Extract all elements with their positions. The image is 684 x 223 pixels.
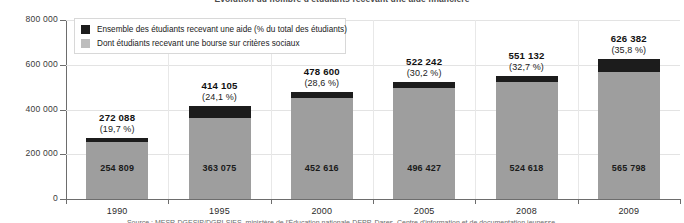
bar-value-percentage: (35,8 %)	[584, 45, 674, 55]
bar-segment-boursiers[interactable]	[189, 118, 251, 199]
bar-value-boursiers: 524 618	[496, 163, 558, 173]
bar-value-boursiers: 565 798	[598, 163, 660, 173]
x-tick-mark	[578, 199, 579, 204]
bar-group[interactable]: 524 618551 132(32,7 %)	[496, 20, 558, 199]
category-separator	[578, 20, 579, 199]
bar-group[interactable]: 565 798626 382(35,8 %)	[598, 20, 660, 199]
bar-segment-ensemble[interactable]	[496, 76, 558, 82]
chart-legend: Ensemble des étudiants recevant une aide…	[74, 18, 346, 54]
x-tick-mark	[680, 199, 681, 204]
bar-value-total: 522 242	[379, 56, 469, 67]
bar-value-total: 272 088	[72, 112, 162, 123]
x-tick-mark	[168, 199, 169, 204]
y-tick-label: 600 000	[26, 59, 58, 69]
bar-value-percentage: (32,7 %)	[482, 62, 572, 72]
category-separator	[373, 20, 374, 199]
legend-label-ensemble: Ensemble des étudiants recevant une aide…	[97, 25, 347, 34]
bar-segment-boursiers[interactable]	[393, 88, 455, 199]
x-tick-mark	[373, 199, 374, 204]
legend-label-boursiers: Dont étudiants recevant une bourse sur c…	[97, 39, 300, 48]
x-axis-label: 2008	[487, 206, 567, 216]
category-separator	[475, 20, 476, 199]
bar-value-total: 478 600	[277, 66, 367, 77]
x-axis-label: 2005	[384, 206, 464, 216]
bar-segment-boursiers[interactable]	[598, 72, 660, 199]
bar-segment-ensemble[interactable]	[189, 106, 251, 117]
bar-value-total: 626 382	[584, 33, 674, 44]
source-note: Source : MESR-DGESIP/DGRI-SIES, ministèr…	[0, 219, 684, 223]
x-tick-mark	[475, 199, 476, 204]
x-axis-label: 1990	[77, 206, 157, 216]
bar-value-boursiers: 496 427	[393, 163, 455, 173]
y-tick-mark	[60, 110, 66, 111]
y-tick-mark	[60, 65, 66, 66]
legend-item-boursiers[interactable]: Dont étudiants recevant une bourse sur c…	[81, 37, 339, 50]
x-tick-mark	[66, 199, 67, 204]
bar-value-boursiers: 363 075	[189, 163, 251, 173]
y-tick-label: 0	[53, 193, 58, 203]
y-tick-label: 200 000	[26, 148, 58, 158]
bar-value-total: 414 105	[175, 80, 265, 91]
bar-value-percentage: (19,7 %)	[72, 124, 162, 134]
chart-title: Évolution du nombre d'étudiants recevant…	[0, 0, 684, 3]
legend-item-ensemble[interactable]: Ensemble des étudiants recevant une aide…	[81, 23, 339, 36]
bar-segment-ensemble[interactable]	[291, 92, 353, 98]
bar-segment-ensemble[interactable]	[393, 82, 455, 88]
legend-swatch-dark-icon	[81, 25, 90, 34]
y-tick-label: 400 000	[26, 104, 58, 114]
bar-value-percentage: (28,6 %)	[277, 78, 367, 88]
bar-segment-boursiers[interactable]	[496, 82, 558, 199]
bar-value-boursiers: 254 809	[86, 163, 148, 173]
x-axis-label: 2009	[589, 206, 669, 216]
bar-value-boursiers: 452 616	[291, 163, 353, 173]
bar-group[interactable]: 496 427522 242(30,2 %)	[393, 20, 455, 199]
x-axis-label: 2000	[282, 206, 362, 216]
y-tick-label: 800 000	[26, 14, 58, 24]
bar-segment-ensemble[interactable]	[86, 138, 148, 142]
bar-segment-ensemble[interactable]	[598, 59, 660, 73]
x-axis-label: 1995	[180, 206, 260, 216]
bar-value-percentage: (30,2 %)	[379, 68, 469, 78]
bar-value-total: 551 132	[482, 50, 572, 61]
bar-segment-boursiers[interactable]	[291, 98, 353, 199]
y-tick-mark	[60, 154, 66, 155]
bar-value-percentage: (24,1 %)	[175, 92, 265, 102]
x-tick-mark	[271, 199, 272, 204]
legend-swatch-light-icon	[81, 39, 90, 48]
y-tick-mark	[60, 20, 66, 21]
